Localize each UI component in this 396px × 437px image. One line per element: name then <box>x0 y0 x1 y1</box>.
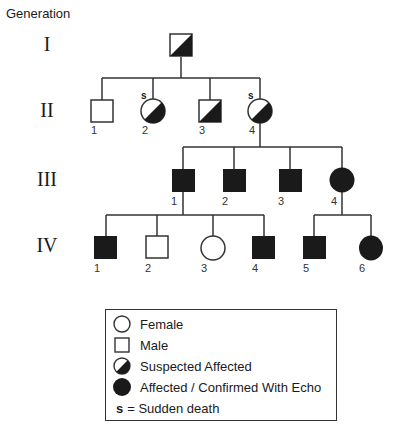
individual-iv-5-male-affected <box>303 236 326 259</box>
individual-number: 5 <box>303 262 309 274</box>
individual-number: 1 <box>171 195 177 207</box>
individual-ii-3-male-suspected <box>199 100 221 122</box>
affected-icon <box>112 377 132 397</box>
legend-item-affected: Affected / Confirmed With Echo <box>112 377 321 397</box>
sudden-death-marker-ii-4: s <box>248 90 254 101</box>
legend-label: Suspected Affected <box>140 359 252 374</box>
legend-label: Female <box>140 317 183 332</box>
pedigree-chart <box>0 0 396 300</box>
individual-number: 1 <box>91 124 97 136</box>
pedigree-lines <box>102 57 371 236</box>
legend-label: Affected / Confirmed With Echo <box>140 380 321 395</box>
individual-number: 2 <box>142 124 148 136</box>
individual-number: 3 <box>199 124 205 136</box>
male-square-icon <box>112 335 132 355</box>
individual-ii-4-female-suspected <box>248 99 272 123</box>
individual-iii-2-male-affected <box>223 169 246 192</box>
individual-iv-3-female <box>201 236 225 260</box>
legend-item-female: Female <box>112 314 183 334</box>
individual-number: 6 <box>359 262 365 274</box>
sudden-death-symbol: s <box>116 401 123 416</box>
individual-number: 2 <box>222 195 228 207</box>
legend-label: Male <box>140 338 168 353</box>
legend-item-male: Male <box>112 335 168 355</box>
individual-iv-2-male <box>146 236 168 258</box>
individual-number: 1 <box>94 262 100 274</box>
individual-number: 4 <box>252 262 258 274</box>
individual-i-male-suspected <box>170 34 192 56</box>
individual-iii-3-male-affected <box>279 169 302 192</box>
individual-number: 2 <box>145 262 151 274</box>
individual-iv-1-male-affected <box>94 236 117 259</box>
female-circle-icon <box>112 314 132 334</box>
individual-iii-1-male-affected <box>172 169 195 192</box>
individual-iv-4-male-affected <box>252 236 275 259</box>
legend-item-suspected-affected: Suspected Affected <box>112 356 252 376</box>
individual-number: 4 <box>249 124 255 136</box>
individual-iv-6-female-affected <box>359 236 383 261</box>
legend-box: Female Male Suspected Affected Affected … <box>105 309 337 421</box>
legend-label: = Sudden death <box>127 401 219 416</box>
individual-number: 3 <box>278 195 284 207</box>
legend-item-sudden-death: s = Sudden death <box>116 398 219 418</box>
individual-ii-1-male <box>91 100 113 122</box>
suspected-affected-icon <box>112 356 132 376</box>
individual-ii-2-female-suspected <box>141 99 165 123</box>
individual-number: 4 <box>331 195 337 207</box>
individual-iii-4-female-affected <box>330 168 355 193</box>
sudden-death-marker-ii-2: s <box>141 90 147 101</box>
individual-number: 3 <box>201 262 207 274</box>
